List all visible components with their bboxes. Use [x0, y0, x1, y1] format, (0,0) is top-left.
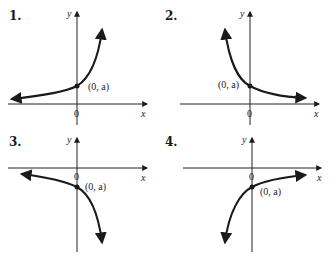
- point-label: (0, a): [218, 79, 239, 91]
- point-label: (0, a): [88, 81, 109, 93]
- panel-number: 4.: [165, 135, 178, 149]
- origin-label: 0: [74, 108, 79, 119]
- origin-label: 0: [74, 171, 79, 182]
- point-label: (0, a): [260, 186, 281, 198]
- labels-layer: 1. y x 0 (0, a) 2. y x 0 (0, a) 3. y x 0…: [0, 0, 331, 259]
- x-axis-label: x: [313, 108, 319, 119]
- origin-label: 0: [249, 171, 254, 182]
- y-axis-label: y: [66, 134, 72, 145]
- panel-number: 2.: [165, 9, 178, 23]
- panel-number: 1.: [9, 9, 22, 23]
- origin-label: 0: [247, 108, 252, 119]
- x-axis-label: x: [140, 108, 146, 119]
- y-axis-label: y: [239, 8, 245, 19]
- y-axis-label: y: [66, 8, 72, 19]
- panel-number: 3.: [9, 135, 22, 149]
- y-axis-label: y: [241, 134, 247, 145]
- x-axis-label: x: [316, 172, 322, 183]
- x-axis-label: x: [140, 172, 146, 183]
- point-label: (0, a): [85, 181, 106, 193]
